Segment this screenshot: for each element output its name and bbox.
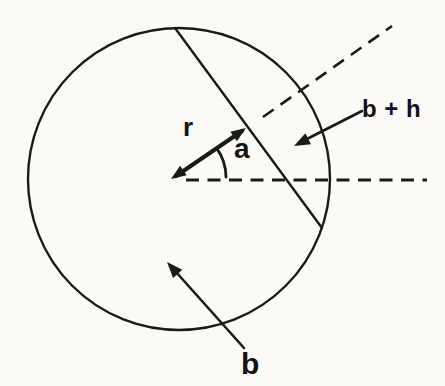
- geometry-diagram: r a b + h b: [0, 0, 445, 386]
- label-b: b: [241, 347, 259, 380]
- scanned-figure-page: r a b + h b: [0, 0, 445, 386]
- b-pointer: [167, 262, 244, 348]
- chord-line: [175, 28, 322, 228]
- label-b-plus-h: b + h: [362, 95, 421, 122]
- r-arrowhead-center-icon: [171, 166, 187, 179]
- b-pointer-line: [176, 272, 244, 348]
- b-plus-h-pointer: [294, 111, 362, 146]
- b-plus-h-pointer-line: [303, 111, 362, 141]
- label-a: a: [234, 133, 250, 164]
- label-r: r: [183, 112, 193, 142]
- angle-a-arc: [217, 148, 226, 177]
- b-plus-h-arrowhead-icon: [294, 133, 311, 146]
